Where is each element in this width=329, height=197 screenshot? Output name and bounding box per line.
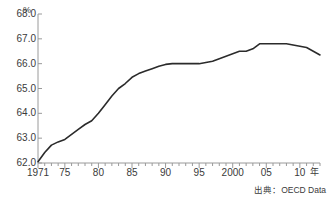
axes <box>38 14 320 163</box>
y-axis-ticks <box>38 14 42 163</box>
line-chart: % 68.067.066.065.064.063.062.0 197175808… <box>0 0 329 197</box>
data-series <box>38 44 320 162</box>
series-line <box>38 44 320 162</box>
x-axis-unit-label: 年 <box>310 168 319 177</box>
source-note: 出典：OECD Data <box>254 186 326 195</box>
